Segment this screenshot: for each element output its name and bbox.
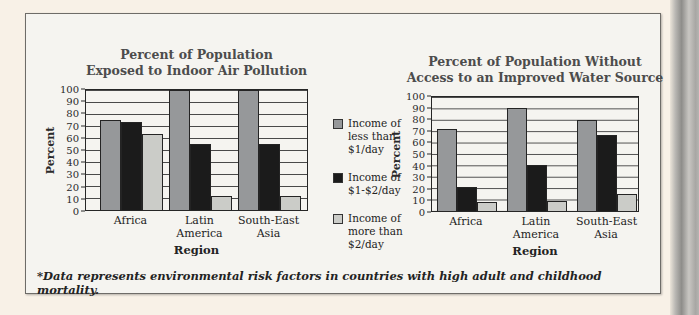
page-edge-strip — [670, 0, 699, 315]
y-tick: 90 — [412, 102, 431, 113]
x-category-label: LatinAmerica — [506, 215, 566, 241]
y-tick-label: 10 — [412, 195, 425, 206]
y-tick: 40 — [412, 160, 431, 171]
y-tick: 90 — [66, 96, 85, 107]
x-axis-labels: AfricaLatinAmericaSouth-EastAsia — [431, 215, 639, 241]
x-category-label-line: America — [506, 228, 566, 241]
y-tick-label: 80 — [66, 108, 79, 119]
plot-area — [431, 96, 639, 212]
page: { "figure": { "footnote": "*Data represe… — [0, 0, 699, 315]
chart-indoor-air-pollution: Percent of Population Exposed to Indoor … — [43, 47, 308, 257]
legend-swatch-icon — [333, 173, 343, 183]
y-tick: 0 — [419, 207, 431, 218]
y-tick-label: 20 — [66, 181, 79, 192]
chart-title-line-1: Percent of Population Without — [386, 54, 684, 70]
x-category-label: South-EastAsia — [576, 215, 636, 241]
x-category-label-line: South-East — [237, 214, 300, 227]
y-tick: 100 — [60, 84, 85, 95]
chart-title: Percent of Population Exposed to Indoor … — [40, 47, 353, 79]
y-tick-label: 100 — [60, 84, 79, 95]
x-category-label-line: Asia — [576, 228, 636, 241]
figure-box: Percent of Population Exposed to Indoor … — [25, 13, 661, 294]
y-tick-label: 50 — [412, 149, 425, 160]
bar — [238, 90, 259, 210]
y-axis-title-text: Percent — [45, 126, 58, 174]
y-tick: 50 — [66, 145, 85, 156]
x-axis-title: Region — [431, 244, 639, 258]
bar — [280, 196, 301, 210]
x-category-label-line: Africa — [99, 214, 162, 227]
y-tick: 40 — [66, 157, 85, 168]
bar — [527, 165, 547, 211]
y-tick: 80 — [412, 114, 431, 125]
y-tick-label: 10 — [66, 193, 79, 204]
bar — [437, 129, 457, 211]
y-tick: 10 — [66, 193, 85, 204]
chart-improved-water-source: Percent of Population Without Access to … — [389, 54, 639, 258]
x-category-label-line: Latin — [168, 214, 231, 227]
y-tick: 20 — [66, 181, 85, 192]
y-tick: 30 — [412, 172, 431, 183]
y-tick: 30 — [66, 169, 85, 180]
y-tick: 70 — [412, 125, 431, 136]
y-tick-label: 60 — [412, 137, 425, 148]
bar — [190, 144, 211, 210]
x-category-label-line: Latin — [506, 215, 566, 228]
x-category-label: South-EastAsia — [237, 214, 300, 240]
bar — [169, 90, 190, 210]
bar-group — [577, 97, 637, 211]
y-tick: 0 — [73, 206, 85, 217]
y-tick-label: 80 — [412, 114, 425, 125]
y-tick-label: 0 — [73, 206, 79, 217]
bar — [577, 120, 597, 211]
chart-title-line-2: Exposed to Indoor Air Pollution — [40, 63, 353, 79]
bar-group — [507, 97, 567, 211]
x-category-label-line: America — [168, 227, 231, 240]
y-tick-label: 70 — [66, 120, 79, 131]
y-axis-ticks: 1009080706050403020100 — [405, 96, 431, 212]
plot-area — [85, 89, 308, 211]
y-tick: 80 — [66, 108, 85, 119]
x-category-label: LatinAmerica — [168, 214, 231, 240]
y-tick-label: 0 — [419, 207, 425, 218]
x-category-label: Africa — [436, 215, 496, 241]
x-category-label-line: South-East — [576, 215, 636, 228]
y-tick: 70 — [66, 120, 85, 131]
y-tick-label: 90 — [66, 96, 79, 107]
y-tick-label: 100 — [406, 91, 425, 102]
y-axis-title: Percent — [389, 96, 405, 212]
y-axis-title: Percent — [43, 89, 59, 211]
x-category-label-line: Asia — [237, 227, 300, 240]
bar — [259, 144, 280, 210]
y-tick: 60 — [412, 137, 431, 148]
x-axis-title: Region — [85, 243, 308, 257]
bar — [100, 120, 121, 210]
x-category-label-line: Africa — [436, 215, 496, 228]
y-tick-label: 50 — [66, 145, 79, 156]
chart-title-line-1: Percent of Population — [40, 47, 353, 63]
y-tick: 60 — [66, 132, 85, 143]
bar — [457, 187, 477, 211]
y-tick: 20 — [412, 183, 431, 194]
x-axis-labels: AfricaLatinAmericaSouth-EastAsia — [85, 214, 308, 240]
y-tick-label: 90 — [412, 102, 425, 113]
y-tick-label: 30 — [66, 169, 79, 180]
bar — [142, 134, 163, 210]
footnote: *Data represents environmental risk fact… — [37, 269, 660, 297]
bar — [507, 108, 527, 211]
bar — [597, 135, 617, 211]
y-tick-label: 30 — [412, 172, 425, 183]
bar — [617, 194, 637, 211]
bar-group — [437, 97, 497, 211]
y-axis-title-text: Percent — [391, 130, 404, 178]
y-tick-label: 70 — [412, 125, 425, 136]
bar — [547, 201, 567, 211]
bar-group — [100, 90, 163, 210]
y-tick: 50 — [412, 149, 431, 160]
bar-group — [169, 90, 232, 210]
bar — [477, 202, 497, 211]
bar — [121, 122, 142, 210]
y-tick-label: 20 — [412, 183, 425, 194]
y-tick: 10 — [412, 195, 431, 206]
bar — [211, 196, 232, 210]
